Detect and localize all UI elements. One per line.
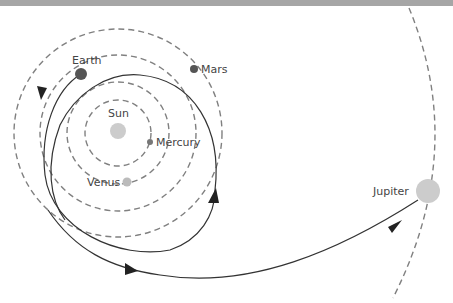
jupiter-body <box>416 179 440 203</box>
earth-body <box>75 68 87 80</box>
mars-label: Mars <box>201 63 228 76</box>
jupiter-label: Jupiter <box>372 185 409 198</box>
venus-body <box>123 178 132 187</box>
arrow-icon <box>125 263 138 275</box>
jupiter-orbit <box>393 8 435 298</box>
mars-body <box>190 65 198 73</box>
arrow-icon <box>388 220 402 233</box>
arrow-icon <box>37 86 47 100</box>
mercury-body <box>147 139 153 145</box>
mercury-label: Mercury <box>156 136 201 149</box>
venus-label: Venus <box>87 176 120 189</box>
sun-label: Sun <box>108 107 129 120</box>
solar-system-diagram: Sun Mercury Venus Earth Mars Jupiter <box>0 0 453 303</box>
sun-body <box>110 123 126 139</box>
orbits <box>14 8 435 298</box>
earth-label: Earth <box>72 54 102 67</box>
arrow-icon <box>208 188 219 203</box>
trajectory-to-jupiter <box>48 200 418 278</box>
